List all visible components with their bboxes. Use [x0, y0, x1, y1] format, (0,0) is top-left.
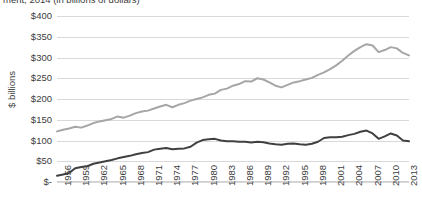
y-tick-label: $200: [4, 94, 52, 104]
y-tick-label: $350: [4, 32, 52, 42]
y-axis: $ billions $400$350$300$250$200$150$100$…: [0, 0, 52, 220]
y-tick-label: $150: [4, 115, 52, 125]
y-tick-label: $-: [4, 177, 52, 187]
y-tick-label: $400: [4, 11, 52, 21]
x-tick-label: 2013: [408, 174, 422, 186]
plot-area: [57, 16, 409, 182]
series-lines: [57, 16, 409, 182]
y-tick-label: $300: [4, 53, 52, 63]
y-tick-label: $50: [4, 156, 52, 166]
y-tick-label: $100: [4, 136, 52, 146]
y-tick-label: $250: [4, 73, 52, 83]
x-axis-labels: 1956195919621965196819711974197719801983…: [57, 184, 409, 220]
series-line: [57, 44, 409, 131]
